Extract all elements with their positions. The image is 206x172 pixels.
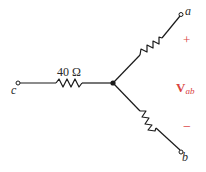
terminal-b-label: b bbox=[182, 150, 188, 164]
terminal-a-label: a bbox=[185, 4, 191, 18]
wire-a-upper bbox=[162, 16, 180, 38]
branch-a bbox=[113, 13, 183, 84]
wire-a-lower bbox=[113, 55, 140, 83]
resistor-c-label: 40 Ω bbox=[57, 65, 81, 79]
circuit-diagram: 40 Ω c a b + Vab − bbox=[0, 0, 206, 172]
resistor-a bbox=[140, 37, 162, 55]
voltage-minus-sign: − bbox=[183, 119, 191, 134]
terminal-c-label: c bbox=[11, 83, 17, 97]
wire-b-lower bbox=[156, 128, 180, 150]
branch-c bbox=[16, 79, 113, 87]
resistor-b bbox=[140, 111, 156, 131]
voltage-subscript: ab bbox=[185, 86, 195, 96]
branch-b bbox=[113, 83, 183, 154]
resistor-40-ohm bbox=[56, 79, 82, 87]
voltage-symbol: Vab bbox=[176, 80, 195, 96]
voltage-plus-sign: + bbox=[183, 32, 190, 47]
center-node bbox=[110, 80, 115, 85]
terminal-a bbox=[179, 13, 183, 17]
terminal-c bbox=[16, 81, 20, 85]
wire-b-upper bbox=[113, 83, 140, 111]
